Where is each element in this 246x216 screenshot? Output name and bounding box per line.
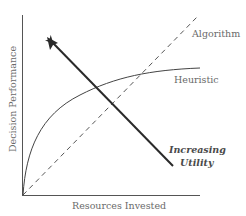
algorithm-label: Algorithm <box>191 28 240 39</box>
utility-label-line2: Utility <box>180 157 215 168</box>
heuristic-label: Heuristic <box>174 74 219 85</box>
arrowhead-icon <box>47 37 58 50</box>
performance-vs-resources-diagram: Algorithm Heuristic Increasing Utility R… <box>0 0 246 216</box>
x-axis-label: Resources Invested <box>72 200 166 211</box>
utility-label-line1: Increasing <box>168 144 226 155</box>
heuristic-curve <box>23 68 200 195</box>
y-axis-label: Decision Performance <box>7 46 18 152</box>
